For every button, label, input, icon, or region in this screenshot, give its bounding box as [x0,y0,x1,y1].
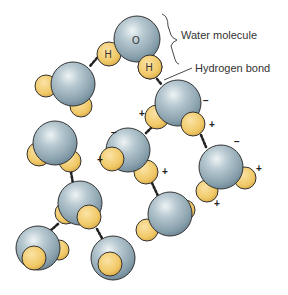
oxygen-label: O [132,35,140,46]
hydrogen-bond-line [157,79,162,85]
hydrogen-bond-leader-line [164,68,192,80]
hydrogen-label: H [146,62,153,73]
hydrogen-bond-line [201,135,206,147]
water-molecule [100,128,158,184]
water-molecule [55,181,102,229]
hydrogen-label: H [105,49,112,60]
molecules-canvas: H H O [0,0,288,295]
negative-charge-sign: − [234,136,240,147]
negative-charge-sign: − [111,127,117,138]
positive-charge-sign: + [214,198,220,209]
water-molecule [196,145,256,202]
water-molecule [16,226,69,270]
positive-charge-sign: + [256,163,262,174]
molecule-brace [162,14,179,64]
positive-charge-sign: + [209,119,215,130]
water-molecule-label: Water molecule [181,29,257,41]
water-molecule [35,62,95,117]
water-molecule [91,236,135,280]
water-hydrogen-bond-diagram: H H O [0,0,288,295]
positive-charge-sign: + [162,166,168,177]
water-molecule [27,121,81,172]
negative-charge-sign: − [203,95,209,106]
water-molecule [145,80,205,136]
hydrogen-bond-line [152,183,158,196]
hydrogen-bond-label: Hydrogen bond [195,62,270,74]
hydrogen-bond-line [90,58,97,66]
positive-charge-sign: + [139,108,145,119]
water-molecule-labeled: H H O [97,16,162,79]
positive-charge-sign: + [97,154,103,165]
water-molecule [136,192,195,241]
